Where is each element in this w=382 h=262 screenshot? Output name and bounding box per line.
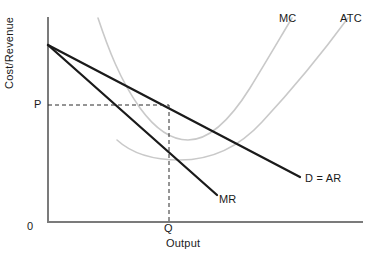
marginal-cost-label: MC [279, 13, 297, 24]
origin-label: 0 [27, 221, 33, 232]
cost-revenue-diagram: Cost/Revenue Output 0 P Q MC ATC D = AR … [0, 0, 382, 262]
demand-average-revenue-label: D = AR [305, 173, 341, 184]
price-axis-label: P [34, 99, 42, 110]
average-total-cost-curve [117, 18, 348, 160]
average-total-cost-label: ATC [340, 13, 362, 24]
x-axis-title: Output [166, 238, 200, 249]
y-axis-title: Cost/Revenue [4, 75, 15, 89]
chart-canvas [0, 0, 382, 262]
marginal-revenue-label: MR [219, 194, 237, 205]
quantity-axis-label: Q [164, 223, 173, 234]
